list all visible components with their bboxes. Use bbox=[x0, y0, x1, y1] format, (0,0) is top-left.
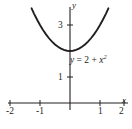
equation-exponent: 2 bbox=[103, 53, 106, 60]
x-tick-label-2: 2 bbox=[119, 107, 124, 117]
equation-equals: = bbox=[74, 55, 84, 65]
graph-figure: -2 -1 1 2 1 3 y x y = 2 + x2 bbox=[0, 0, 132, 129]
y-tick-label-3: 3 bbox=[58, 21, 63, 31]
plot-area bbox=[0, 0, 132, 129]
x-tick-label--2: -2 bbox=[6, 107, 14, 117]
y-axis-name-label: y bbox=[72, 1, 76, 10]
y-tick-label-1: 1 bbox=[58, 73, 63, 83]
x-tick-label--1: -1 bbox=[36, 107, 44, 117]
x-tick-label-1: 1 bbox=[98, 107, 103, 117]
curve-equation-label: y = 2 + x2 bbox=[70, 56, 107, 66]
x-axis-name-label: x bbox=[122, 96, 126, 105]
equation-plus: + bbox=[89, 55, 99, 65]
